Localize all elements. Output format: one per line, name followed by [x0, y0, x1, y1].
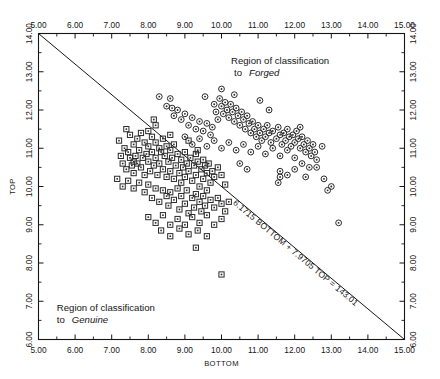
data-point-genuine-center	[173, 144, 175, 146]
data-point-genuine-center	[162, 168, 164, 170]
data-point-forged-center	[327, 189, 329, 191]
data-point-genuine-center	[221, 274, 223, 276]
data-point-genuine-center	[162, 138, 164, 140]
y-tick-label-left: 6.00	[24, 331, 34, 348]
y-tick-label-right: 7.00	[408, 293, 418, 310]
data-point-genuine-center	[135, 155, 137, 157]
x-axis-title: BOTTOM	[204, 359, 239, 368]
data-point-forged-center	[272, 147, 274, 149]
data-point-genuine-center	[169, 235, 171, 237]
x-tick-label-top: 9.00	[177, 20, 194, 30]
x-tick-label-top: 14.00	[358, 20, 379, 30]
data-point-forged-center	[259, 99, 261, 101]
data-point-genuine-center	[179, 228, 181, 230]
data-point-genuine-center	[202, 195, 204, 197]
data-point-forged-center	[307, 140, 309, 142]
data-point-genuine-center	[221, 218, 223, 220]
data-point-forged-center	[253, 128, 255, 130]
data-point-genuine-center	[177, 153, 179, 155]
data-point-forged-center	[290, 145, 292, 147]
x-tick-label-bottom: 8.00	[140, 345, 157, 355]
y-tick-label-left: 7.00	[24, 293, 34, 310]
data-point-genuine-center	[126, 128, 128, 130]
data-point-genuine-center	[173, 178, 175, 180]
y-tick-label-left: 8.00	[24, 255, 34, 272]
data-point-forged-center	[275, 138, 277, 140]
data-point-genuine-center	[129, 134, 131, 136]
data-point-genuine-center	[210, 182, 212, 184]
data-point-forged-center	[235, 149, 237, 151]
data-point-genuine-center	[177, 188, 179, 190]
data-point-forged-center	[237, 115, 239, 117]
data-point-genuine-center	[124, 147, 126, 149]
data-point-genuine-center	[133, 161, 135, 163]
data-point-genuine-center	[131, 165, 133, 167]
data-point-genuine-center	[224, 184, 226, 186]
data-point-genuine-center	[206, 214, 208, 216]
data-point-genuine-center	[193, 165, 195, 167]
data-point-forged-center	[286, 128, 288, 130]
x-tick-label-bottom: 6.00	[67, 345, 84, 355]
data-point-genuine-center	[173, 199, 175, 201]
x-tick-label-bottom: 10.00	[211, 345, 232, 355]
data-point-genuine-center	[213, 176, 215, 178]
data-point-forged-center	[206, 145, 208, 147]
data-point-genuine-center	[188, 234, 190, 236]
data-point-forged-center	[158, 96, 160, 98]
data-point-forged-center	[177, 109, 179, 111]
data-point-genuine-center	[204, 165, 206, 167]
data-point-genuine-center	[212, 170, 214, 172]
data-point-genuine-center	[197, 161, 199, 163]
y-tick-label-left: 10.00	[24, 176, 34, 197]
forged-region-label-line1: Region of classification	[231, 55, 329, 66]
data-point-genuine-center	[138, 182, 140, 184]
data-point-genuine-center	[162, 214, 164, 216]
data-point-genuine-center	[180, 159, 182, 161]
data-point-genuine-center	[148, 130, 150, 132]
data-point-forged-center	[286, 174, 288, 176]
x-tick-label-bottom: 13.00	[321, 345, 342, 355]
data-point-genuine-center	[171, 157, 173, 159]
data-point-forged-center	[272, 130, 274, 132]
data-point-forged-center	[250, 151, 252, 153]
data-point-genuine-center	[122, 186, 124, 188]
data-point-genuine-center	[168, 161, 170, 163]
data-point-genuine-center	[155, 222, 157, 224]
data-point-genuine-center	[202, 178, 204, 180]
data-point-genuine-center	[184, 151, 186, 153]
y-tick-label-right: 9.00	[408, 216, 418, 233]
data-point-forged-center	[232, 111, 234, 113]
data-point-forged-center	[279, 155, 281, 157]
data-point-genuine-center	[142, 157, 144, 159]
data-point-forged-center	[285, 140, 287, 142]
data-point-forged-center	[250, 132, 252, 134]
data-point-forged-center	[294, 157, 296, 159]
data-point-forged-center	[228, 142, 230, 144]
data-point-forged-center	[301, 163, 303, 165]
boundary-equation-label: 6.1715 BOTTOM + 7.9705 TOP = 143.01	[231, 198, 360, 308]
data-point-forged-center	[308, 166, 310, 168]
y-tick-label-left: 12.00	[24, 99, 34, 120]
data-point-forged-center	[270, 142, 272, 144]
data-point-forged-center	[330, 186, 332, 188]
data-point-genuine-center	[180, 182, 182, 184]
data-point-genuine-center	[126, 168, 128, 170]
y-tick-label-right: 11.00	[408, 138, 418, 159]
data-point-forged-center	[323, 178, 325, 180]
data-point-genuine-center	[169, 224, 171, 226]
data-point-forged-center	[215, 111, 217, 113]
data-point-forged-center	[171, 107, 173, 109]
data-point-genuine-center	[166, 176, 168, 178]
data-point-genuine-center	[213, 224, 215, 226]
data-point-genuine-center	[179, 172, 181, 174]
data-point-forged-center	[199, 121, 201, 123]
data-point-genuine-center	[144, 174, 146, 176]
data-point-genuine-center	[206, 172, 208, 174]
data-point-genuine-center	[221, 203, 223, 205]
data-point-forged-center	[221, 147, 223, 149]
data-point-genuine-center	[224, 211, 226, 213]
data-point-forged-center	[255, 136, 257, 138]
data-point-genuine-center	[160, 151, 162, 153]
data-point-genuine-center	[137, 163, 139, 165]
data-point-forged-center	[224, 101, 226, 103]
